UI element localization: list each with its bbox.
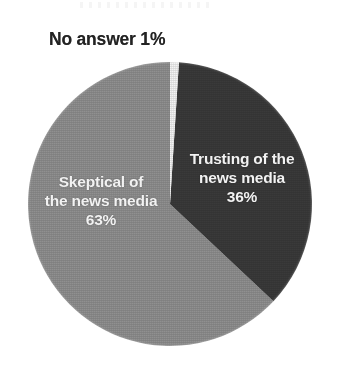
pie-chart-figure: No answer 1% Trusting of the news media … xyxy=(0,0,343,378)
pie-svg xyxy=(28,62,312,346)
pie-slice-label-no-answer: No answer 1% xyxy=(49,29,165,50)
pie-graphic xyxy=(28,62,312,346)
scan-artifact xyxy=(80,2,210,8)
